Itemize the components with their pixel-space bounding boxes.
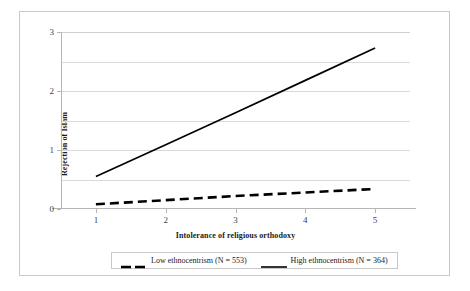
dashed-line-icon: [121, 257, 147, 265]
x-tick-label: 4: [303, 216, 308, 225]
legend-entry[interactable]: High ethnocentrism (N = 364): [261, 257, 388, 265]
legend-label: Low ethnocentrism (N = 553): [151, 257, 247, 265]
y-tick-mark: [57, 209, 61, 210]
plot-area: 0123 12345: [61, 32, 410, 209]
x-tick-label: 3: [233, 216, 238, 225]
x-tick-mark: [96, 209, 97, 213]
x-axis-title: Intolerance of religious orthodoxy: [61, 231, 410, 240]
chart-legend: Low ethnocentrism (N = 553)High ethnocen…: [111, 252, 398, 269]
x-tick-mark: [305, 209, 306, 213]
chart-figure: Rejection of Islam Intolerance of religi…: [19, 11, 450, 276]
series-line: [96, 48, 375, 177]
x-tick-mark: [166, 209, 167, 213]
x-tick-label: 1: [94, 216, 99, 225]
y-tick-label: 0: [50, 205, 55, 214]
x-tick-label: 5: [373, 216, 378, 225]
y-tick-label: 1: [50, 146, 55, 155]
x-tick-label: 2: [163, 216, 168, 225]
series-line: [96, 189, 375, 204]
legend-label: High ethnocentrism (N = 364): [291, 257, 388, 265]
series-lines: [61, 32, 410, 209]
legend-entry[interactable]: Low ethnocentrism (N = 553): [121, 257, 247, 265]
x-tick-mark: [236, 209, 237, 213]
y-tick-label: 2: [50, 87, 55, 96]
y-tick-label: 3: [50, 28, 55, 37]
solid-line-icon: [261, 257, 287, 265]
x-tick-mark: [375, 209, 376, 213]
